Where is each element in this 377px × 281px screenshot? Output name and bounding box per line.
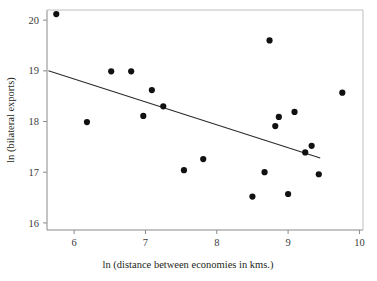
data-point	[84, 119, 90, 125]
data-point	[140, 113, 146, 119]
data-point	[309, 143, 315, 149]
data-point	[181, 167, 187, 173]
data-point	[261, 169, 267, 175]
x-axis-title: ln (distance between economies in kms.)	[103, 259, 274, 271]
data-point	[276, 114, 282, 120]
y-tick-label: 16	[29, 218, 40, 229]
y-tick-label: 17	[29, 167, 40, 178]
y-axis-ticks: 1617181920	[29, 15, 48, 229]
data-point	[272, 123, 278, 129]
data-point	[285, 191, 291, 197]
y-tick-label: 20	[29, 15, 40, 26]
data-point	[266, 37, 272, 43]
plot-frame	[47, 10, 363, 230]
data-point	[249, 193, 255, 199]
x-axis-ticks: 678910	[71, 230, 364, 248]
y-tick-label: 19	[29, 65, 40, 76]
data-point	[128, 68, 134, 74]
data-points	[53, 11, 345, 200]
data-point	[291, 109, 297, 115]
x-tick-label: 6	[71, 237, 76, 248]
data-point	[339, 90, 345, 96]
data-point	[149, 87, 155, 93]
x-tick-label: 8	[214, 237, 219, 248]
scatter-plot-figure: 678910 1617181920 ln (distance between e…	[0, 0, 377, 281]
data-point	[316, 171, 322, 177]
data-point	[160, 103, 166, 109]
x-tick-label: 7	[143, 237, 148, 248]
x-tick-label: 10	[354, 237, 365, 248]
data-point	[108, 68, 114, 74]
data-point	[302, 149, 308, 155]
x-tick-label: 9	[285, 237, 290, 248]
y-axis-title: ln (bilateral exports)	[5, 77, 17, 163]
plot-canvas: 678910 1617181920 ln (distance between e…	[0, 0, 377, 281]
data-point	[53, 11, 59, 17]
data-point	[200, 156, 206, 162]
y-tick-label: 18	[29, 116, 40, 127]
